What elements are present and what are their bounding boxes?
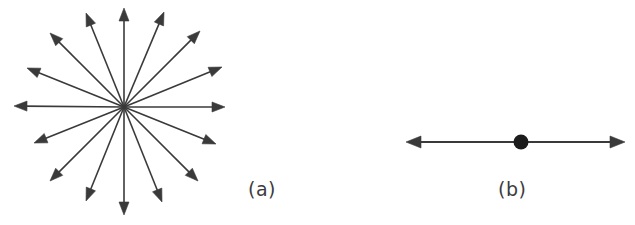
panel-a-caption: (a): [248, 178, 276, 200]
panel-b-caption: (b): [498, 178, 526, 200]
axis-arrow-right: [516, 136, 626, 148]
axis-arrow-left: [406, 136, 516, 148]
burst-arrow-15: [86, 13, 124, 107]
vector-diagram-canvas: [0, 0, 635, 225]
burst-arrow-8: [119, 107, 129, 215]
burst-arrow-13: [27, 68, 124, 107]
burst-arrow-12: [14, 101, 124, 111]
burst-arrow-4: [124, 102, 225, 112]
burst-arrow-6: [124, 107, 198, 181]
burst-arrow-11: [34, 107, 124, 143]
burst-arrow-0: [119, 8, 129, 107]
burst-arrow-2: [124, 31, 200, 107]
burst-arrow-10: [50, 107, 124, 181]
burst-arrow-14: [50, 33, 124, 107]
figure-container: (a) (b): [0, 0, 635, 225]
panel-a-starburst: [14, 8, 225, 215]
burst-arrow-7: [124, 107, 162, 202]
panel-b-axis: [406, 135, 625, 150]
burst-arrow-9: [86, 107, 124, 201]
axis-center-dot: [514, 135, 529, 150]
burst-arrow-5: [124, 107, 216, 144]
